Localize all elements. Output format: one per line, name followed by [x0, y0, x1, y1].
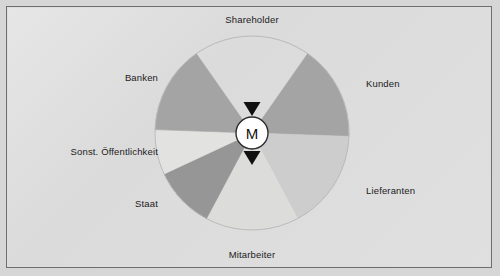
segment-label-staat: Staat — [135, 198, 158, 209]
segment-label-kunden: Kunden — [366, 78, 400, 89]
segment-label-sonst-oeffentlichkeit: Sonst. Öffentlichkeit — [71, 146, 158, 157]
triangle-down-icon-top — [244, 102, 261, 116]
segment-label-banken: Banken — [125, 72, 158, 83]
segment-label-lieferanten: Lieferanten — [366, 185, 415, 196]
wheel-svg: M — [0, 0, 500, 276]
triangle-down-shape — [244, 102, 261, 116]
hub-letter: M — [246, 125, 259, 142]
segment-label-mitarbeiter: Mitarbeiter — [229, 249, 276, 260]
stakeholder-wheel: M ShareholderKundenLieferantenMitarbeite… — [0, 0, 500, 276]
diagram-canvas: M ShareholderKundenLieferantenMitarbeite… — [0, 0, 500, 276]
segment-label-shareholder: Shareholder — [225, 14, 278, 25]
wheel-segment-kunden[interactable] — [252, 54, 349, 137]
wheel-segment-banken[interactable] — [155, 54, 252, 133]
